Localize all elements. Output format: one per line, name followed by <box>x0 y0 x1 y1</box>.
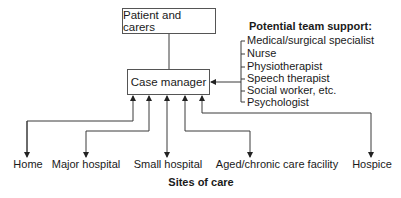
site-major-hospital: Major hospital <box>52 158 120 171</box>
team-support-title: Potential team support: <box>249 20 372 32</box>
patient-and-carers-box: Patient and carers <box>122 8 216 34</box>
site-hospice: Hospice <box>352 158 392 171</box>
site-aged-care-facility: Aged/chronic care facility <box>216 158 338 171</box>
team-item: Nurse <box>247 47 276 60</box>
sites-of-care-title: Sites of care <box>168 176 233 188</box>
team-item: Medical/surgical specialist <box>247 34 374 47</box>
case-manager-box: Case manager <box>127 69 210 95</box>
team-item: Psychologist <box>247 96 309 109</box>
site-home: Home <box>13 158 42 171</box>
care-network-diagram: Patient and carers Case manager Potentia… <box>0 0 401 198</box>
site-small-hospital: Small hospital <box>134 158 202 171</box>
